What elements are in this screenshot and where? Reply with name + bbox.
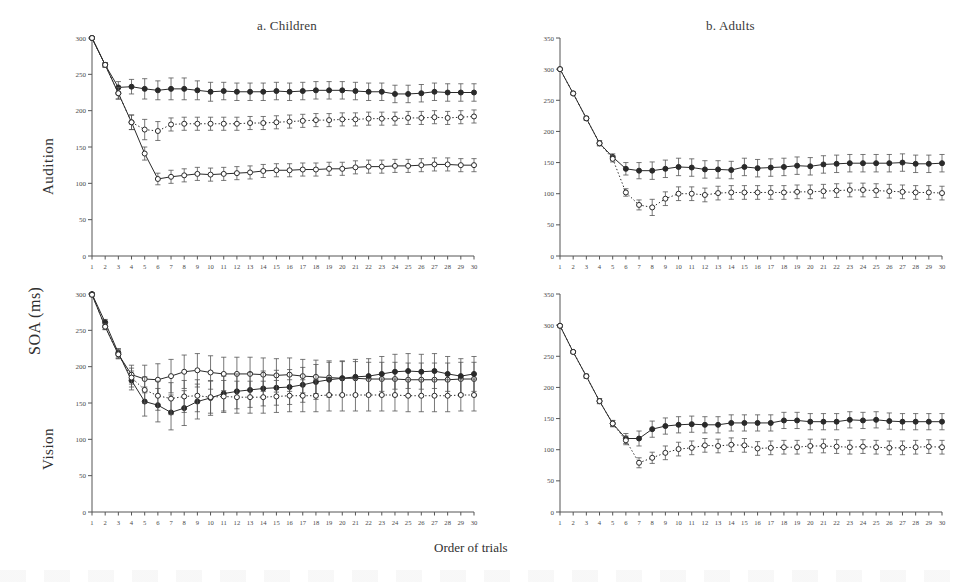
data-point — [689, 165, 694, 170]
data-point — [392, 163, 397, 168]
data-point — [445, 162, 450, 167]
data-point — [702, 192, 707, 197]
data-point — [366, 164, 371, 169]
svg-text:300: 300 — [76, 35, 87, 43]
svg-text:5: 5 — [143, 263, 147, 270]
series-line — [560, 69, 942, 171]
svg-text:150: 150 — [76, 400, 87, 408]
data-point — [650, 168, 655, 173]
data-point — [169, 374, 174, 379]
svg-text:250: 250 — [76, 327, 87, 335]
data-point — [663, 450, 668, 455]
svg-text:9: 9 — [196, 263, 200, 270]
svg-text:15: 15 — [273, 519, 280, 526]
svg-text:23: 23 — [378, 263, 385, 270]
svg-text:20: 20 — [339, 519, 346, 526]
svg-text:0: 0 — [83, 253, 87, 261]
data-point — [155, 393, 160, 398]
svg-text:7: 7 — [637, 263, 641, 270]
caption-cutoff-ghost — [0, 570, 968, 582]
data-point — [155, 176, 160, 181]
data-point — [472, 371, 477, 376]
data-point — [195, 368, 200, 373]
data-point — [742, 443, 747, 448]
svg-text:17: 17 — [299, 519, 306, 526]
svg-text:50: 50 — [547, 477, 555, 485]
series-open-dotted-middle — [89, 292, 476, 414]
data-point — [571, 91, 576, 96]
series-line — [560, 326, 942, 439]
data-point — [234, 121, 239, 126]
data-point — [834, 419, 839, 424]
data-point — [419, 115, 424, 120]
svg-text:15: 15 — [741, 263, 748, 270]
svg-text:24: 24 — [860, 263, 867, 270]
svg-text:50: 50 — [547, 221, 555, 229]
data-point — [650, 205, 655, 210]
data-point — [392, 369, 397, 374]
data-point — [637, 168, 642, 173]
chart-adults-vision: 0501001502002503003501234567891011121314… — [528, 288, 948, 542]
data-point — [808, 164, 813, 169]
svg-text:11: 11 — [221, 519, 227, 526]
data-point — [860, 444, 865, 449]
data-point — [558, 67, 563, 72]
data-point — [781, 190, 786, 195]
data-point — [689, 422, 694, 427]
svg-text:100: 100 — [544, 446, 555, 454]
data-point — [716, 422, 721, 427]
data-point — [392, 116, 397, 121]
panel-adults-audition: 0501001502002503003501234567891011121314… — [528, 32, 948, 286]
svg-text:350: 350 — [544, 291, 555, 299]
data-point — [571, 349, 576, 354]
data-point — [742, 190, 747, 195]
data-point — [327, 166, 332, 171]
data-point — [847, 187, 852, 192]
data-point — [169, 86, 174, 91]
data-point — [610, 156, 615, 161]
svg-text:18: 18 — [781, 263, 788, 270]
svg-text:21: 21 — [820, 263, 827, 270]
svg-text:27: 27 — [431, 519, 438, 526]
series-filled-solid-upper — [557, 67, 944, 180]
data-point — [900, 189, 905, 194]
data-point — [716, 443, 721, 448]
data-point — [353, 165, 358, 170]
svg-text:28: 28 — [912, 519, 919, 526]
data-point — [821, 443, 826, 448]
data-point — [208, 89, 213, 94]
data-point — [755, 166, 760, 171]
data-point — [221, 171, 226, 176]
svg-text:6: 6 — [156, 263, 160, 270]
svg-text:15: 15 — [273, 263, 280, 270]
svg-text:11: 11 — [221, 263, 227, 270]
data-point — [353, 393, 358, 398]
svg-text:150: 150 — [544, 415, 555, 423]
data-point — [597, 141, 602, 146]
data-point — [366, 374, 371, 379]
svg-text:3: 3 — [117, 263, 121, 270]
data-point — [742, 420, 747, 425]
data-point — [900, 419, 905, 424]
data-point — [221, 89, 226, 94]
data-point — [208, 172, 213, 177]
svg-text:30: 30 — [471, 519, 478, 526]
svg-text:2: 2 — [572, 263, 575, 270]
svg-text:1: 1 — [558, 519, 561, 526]
data-point — [248, 170, 253, 175]
data-point — [729, 168, 734, 173]
data-point — [221, 394, 226, 399]
series-open-dotted-lower — [557, 67, 944, 216]
svg-text:0: 0 — [83, 509, 87, 517]
data-point — [821, 419, 826, 424]
figure-x-axis-label: Order of trials — [434, 540, 508, 556]
svg-text:17: 17 — [767, 263, 774, 270]
data-point — [847, 417, 852, 422]
data-point — [313, 118, 318, 123]
svg-text:26: 26 — [418, 519, 425, 526]
data-point — [940, 161, 945, 166]
svg-text:29: 29 — [926, 263, 933, 270]
svg-text:3: 3 — [117, 519, 121, 526]
svg-text:29: 29 — [458, 263, 465, 270]
data-point — [558, 323, 563, 328]
